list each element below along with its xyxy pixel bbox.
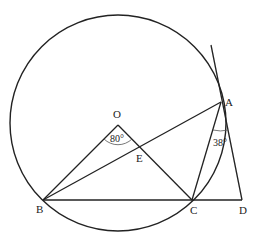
segment-oc <box>118 125 192 200</box>
tangent-line-ad <box>211 45 242 200</box>
circle-o <box>10 15 226 231</box>
label-o: O <box>113 108 121 120</box>
label-e: E <box>136 152 143 164</box>
angle-label-o: 80° <box>110 133 124 144</box>
segment-ob <box>43 125 118 200</box>
label-a: A <box>225 96 233 108</box>
label-b: B <box>36 203 43 215</box>
angle-label-a: 38° <box>213 137 227 148</box>
label-d: D <box>239 204 247 216</box>
geometry-diagram: O A B C D E 80° 38° <box>0 0 261 246</box>
angle-arc-a <box>213 130 228 131</box>
label-c: C <box>190 204 197 216</box>
segment-ab <box>43 102 221 200</box>
